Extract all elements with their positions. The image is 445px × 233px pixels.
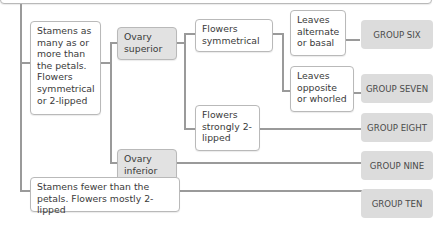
connector [260, 128, 362, 130]
node-flowers-symmetrical: Flowers symmetrical [195, 19, 273, 52]
node-leaves-alternate: Leaves alternate or basal [290, 10, 346, 56]
node-stamens-fewer: Stamens fewer than the petals. Flowers m… [30, 177, 180, 212]
group-eight: GROUP EIGHT [361, 113, 433, 142]
connector [176, 162, 362, 164]
node-flowers-2lipped: Flowers strongly 2-lipped [195, 105, 260, 151]
connector [179, 190, 362, 192]
group-seven: GROUP SEVEN [361, 74, 433, 103]
node-ovary-superior: Ovary superior [117, 27, 177, 60]
connector [345, 39, 360, 41]
parent-box-clipped [0, 0, 432, 4]
node-stamens-many: Stamens as many as or more than the peta… [30, 21, 101, 115]
connector [282, 90, 290, 92]
node-leaves-opposite: Leaves opposite or whorled [290, 66, 354, 112]
group-nine: GROUP NINE [361, 151, 433, 180]
connector [282, 33, 284, 90]
connector [110, 42, 112, 163]
connector [20, 4, 22, 191]
connector [184, 33, 186, 129]
group-ten: GROUP TEN [361, 189, 433, 218]
group-six: GROUP SIX [361, 20, 433, 49]
